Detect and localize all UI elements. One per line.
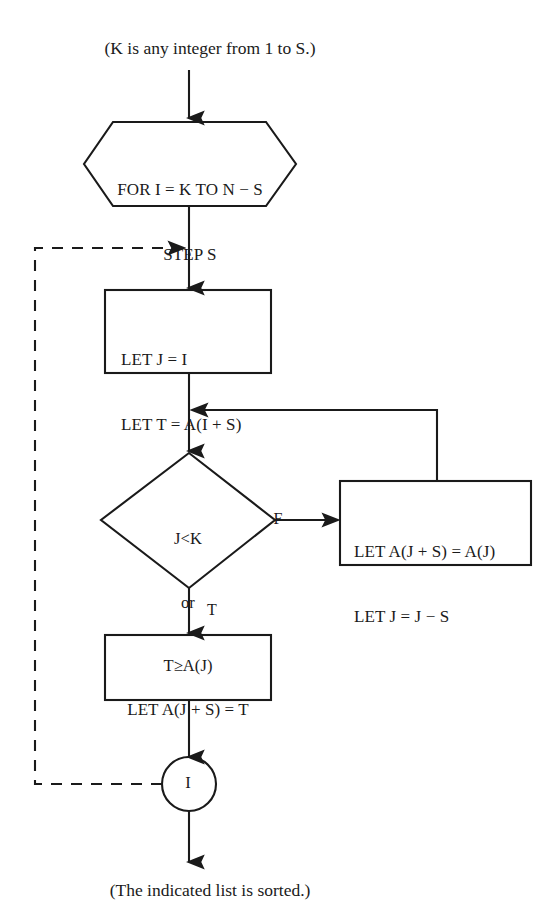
init-box-line1: LET J = I: [121, 349, 271, 371]
init-box-line2: LET T = A(I + S): [121, 414, 271, 436]
start-caption: (K is any integer from 1 to S.): [0, 38, 420, 59]
shift-box-line1: LET A(J + S) = A(J): [354, 541, 531, 563]
place-box-text: LET A(J + S) = T: [105, 655, 271, 764]
end-caption: (The indicated list is sorted.): [0, 880, 420, 901]
decision-line2: or: [108, 592, 268, 613]
loop-header-text: FOR I = K TO N − S STEP S: [85, 135, 295, 309]
flowchart-canvas: (K is any integer from 1 to S.) FOR I = …: [0, 0, 558, 919]
shift-box-text: LET A(J + S) = A(J) LET J = J − S: [340, 497, 531, 671]
init-box-text: LET J = I LET T = A(I + S): [105, 305, 271, 479]
true-branch-label: T: [192, 601, 232, 619]
shift-box-line2: LET J = J − S: [354, 606, 531, 628]
false-branch-label: F: [258, 510, 298, 528]
loop-header-line2: STEP S: [85, 244, 295, 266]
loop-header-line1: FOR I = K TO N − S: [85, 179, 295, 201]
place-box-line1: LET A(J + S) = T: [105, 699, 271, 721]
decision-line1: J<K: [108, 528, 268, 549]
loop-end-label: I: [160, 772, 216, 793]
